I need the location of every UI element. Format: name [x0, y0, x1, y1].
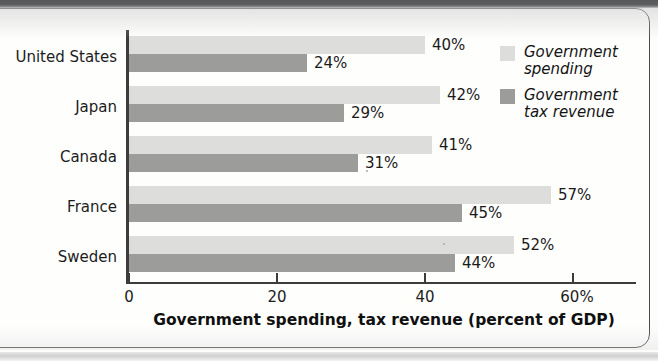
- bar-spending-sweden: [129, 236, 514, 254]
- x-axis-line: [126, 282, 636, 284]
- bar-spending-france: [129, 186, 551, 204]
- bar-value-spending-japan: 42%: [447, 86, 480, 104]
- bar-group-canada: Canada 41% 31%: [129, 136, 581, 176]
- bar-tax-france: [129, 204, 462, 222]
- bar-value-spending-united-states: 40%: [432, 36, 465, 54]
- scan-top-band: [0, 0, 658, 8]
- x-tick-label-40: 40: [415, 288, 434, 306]
- category-label-canada: Canada: [60, 148, 117, 166]
- x-tick-label-60: 60%: [560, 288, 593, 306]
- bar-value-spending-sweden: 52%: [521, 236, 554, 254]
- bar-spending-united-states: [129, 36, 425, 54]
- scan-bottom-edge: [0, 352, 658, 361]
- category-label-france: France: [67, 198, 117, 216]
- x-axis-title: Government spending, tax revenue (percen…: [129, 311, 639, 329]
- legend-label-spending: Government spending: [524, 44, 618, 78]
- category-label-sweden: Sweden: [58, 248, 117, 266]
- bar-group-france: France 57% 45%: [129, 186, 581, 226]
- bar-value-tax-united-states: 24%: [314, 54, 347, 72]
- bar-group-sweden: Sweden 52% 44%: [129, 236, 581, 276]
- bar-value-tax-sweden: 44%: [462, 254, 495, 272]
- bar-value-tax-canada: 31%: [365, 154, 398, 172]
- bar-value-spending-france: 57%: [558, 186, 591, 204]
- legend-item-government-tax-revenue: Government tax revenue: [500, 87, 645, 121]
- bar-tax-sweden: [129, 254, 455, 272]
- x-tick-label-20: 20: [267, 288, 286, 306]
- bar-tax-united-states: [129, 54, 307, 72]
- bar-value-tax-japan: 29%: [351, 104, 384, 122]
- chart-screenshot: 0 20 40 60% United States 40% 24% Japan …: [0, 0, 658, 361]
- bar-tax-canada: [129, 154, 358, 172]
- bar-tax-japan: [129, 104, 344, 122]
- bar-value-tax-france: 45%: [469, 204, 502, 222]
- legend-swatch-tax-icon: [500, 89, 515, 104]
- legend-swatch-spending-icon: [500, 46, 515, 61]
- bar-spending-japan: [129, 86, 440, 104]
- legend-label-tax: Government tax revenue: [524, 87, 618, 121]
- bar-spending-canada: [129, 136, 432, 154]
- x-tick-label-0: 0: [124, 288, 134, 306]
- chart-legend: Government spending Government tax reven…: [500, 44, 645, 130]
- category-label-united-states: United States: [15, 48, 117, 66]
- category-label-japan: Japan: [75, 98, 117, 116]
- bar-value-spending-canada: 41%: [439, 136, 472, 154]
- legend-item-government-spending: Government spending: [500, 44, 645, 78]
